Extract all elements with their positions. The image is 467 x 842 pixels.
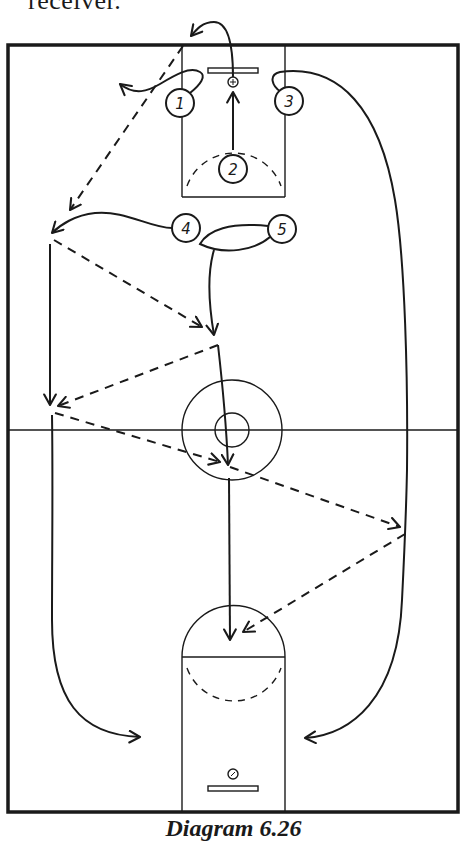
- movement-player-4: [52, 213, 172, 233]
- pass-6: [243, 534, 405, 632]
- player-2-label: 2: [228, 161, 238, 179]
- player-5: 5: [268, 215, 296, 243]
- player-2: 2: [219, 155, 247, 183]
- bottom-free-throw-arc-dashed: [187, 668, 281, 701]
- pass-2: [54, 240, 202, 327]
- player-4-label: 4: [181, 220, 191, 238]
- movement-rebound-outlet: [191, 22, 233, 77]
- player-3: 3: [275, 87, 303, 115]
- pass-4: [55, 413, 220, 462]
- pass-5: [230, 467, 400, 527]
- movement-player-3: [273, 71, 408, 738]
- player-1-label: 1: [175, 95, 185, 113]
- player-5-label: 5: [277, 221, 287, 239]
- player-3-label: 3: [284, 93, 294, 111]
- bottom-backboard: [208, 786, 258, 791]
- movement-middle-down: [218, 345, 228, 465]
- movement-player-5-down: [210, 250, 215, 335]
- movement-player-5: [200, 225, 270, 251]
- movement-middle-to-basket: [229, 478, 230, 640]
- player-1: 1: [166, 89, 194, 117]
- players: 1 2 3 4 5: [166, 87, 303, 243]
- pass-1: [70, 46, 183, 210]
- player-4: 4: [172, 214, 200, 242]
- movement-player-1: [120, 70, 203, 93]
- movement-left-corner: [52, 415, 140, 737]
- bottom-free-throw-arc-solid: [182, 606, 285, 658]
- diagram-caption: Diagram 6.26: [0, 815, 467, 842]
